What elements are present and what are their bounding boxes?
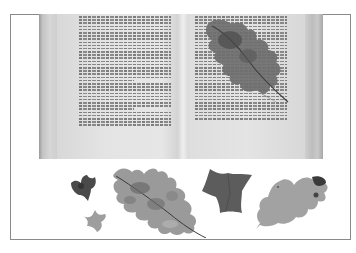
- ivy-leaf: [202, 169, 252, 215]
- small-dark-ivy-leaf: [69, 173, 99, 203]
- book-left-edge: [39, 14, 57, 159]
- oak-leaf-on-book: [198, 16, 294, 104]
- pale-oak-leaf: [252, 173, 332, 231]
- small-light-ivy-leaf: [81, 208, 111, 234]
- large-oak-leaf: [112, 166, 208, 238]
- book-right-edge: [305, 14, 323, 159]
- left-page-text: [79, 16, 171, 126]
- book-left-page: [57, 14, 181, 159]
- book-gutter: [177, 14, 189, 159]
